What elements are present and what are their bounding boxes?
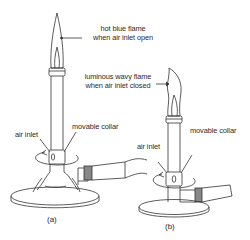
flame-b-outer	[167, 68, 181, 116]
collar-a-label: movable collar	[72, 122, 118, 131]
flame-a-label-line1: hot blue flame	[84, 24, 162, 33]
flame-b-label-line1: luminous wavy flame	[78, 72, 158, 81]
flame-a-label: hot blue flame when air inlet open	[84, 24, 162, 42]
flame-a-outer	[51, 13, 63, 68]
flame-b-label-line2: when air inlet closed	[78, 81, 158, 90]
caption-a: (a)	[47, 215, 57, 224]
collar-b-label: movable collar	[190, 126, 236, 135]
flame-b-label: luminous wavy flame when air inlet close…	[78, 72, 158, 90]
burner-a	[11, 13, 125, 208]
air-inlet-b-label: air inlet	[137, 142, 160, 151]
flame-b-inner	[172, 95, 178, 116]
flame-a-inner	[55, 47, 60, 68]
air-inlet-a-label: air inlet	[15, 130, 38, 139]
flame-a-label-line2: when air inlet open	[84, 33, 162, 42]
caption-b: (b)	[165, 222, 175, 231]
